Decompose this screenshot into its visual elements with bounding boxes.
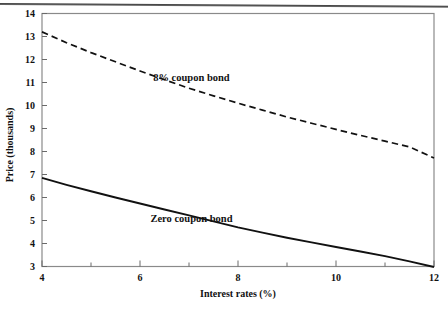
x-tick-label: 4 bbox=[40, 272, 45, 283]
y-tick-label: 9 bbox=[30, 123, 35, 134]
x-tick-label: 10 bbox=[331, 272, 341, 283]
x-tick-label: 8 bbox=[236, 272, 241, 283]
y-axis-title: Price (thousands) bbox=[4, 108, 16, 183]
y-tick-label: 7 bbox=[30, 169, 35, 180]
chart-page: 34567891011121314 4681012 8% coupon bond… bbox=[0, 0, 448, 312]
series-label-2: Zero coupon bond bbox=[150, 213, 232, 224]
y-tick-label: 12 bbox=[25, 54, 35, 65]
x-axis-tick-labels: 4681012 bbox=[40, 272, 440, 283]
bond-price-vs-interest-rate-chart: 34567891011121314 4681012 8% coupon bond… bbox=[0, 0, 448, 312]
x-tick-label: 6 bbox=[138, 272, 143, 283]
y-axis-tick-labels: 34567891011121314 bbox=[25, 8, 35, 272]
x-tick-label: 12 bbox=[429, 272, 439, 283]
x-axis-title: Interest rates (%) bbox=[200, 288, 276, 300]
y-tick-label: 3 bbox=[30, 261, 35, 272]
y-tick-label: 13 bbox=[25, 31, 35, 42]
y-tick-label: 6 bbox=[30, 192, 35, 203]
plot-area-frame bbox=[42, 14, 434, 267]
series-label-1: 8% coupon bond bbox=[153, 72, 230, 83]
y-tick-label: 5 bbox=[30, 215, 35, 226]
y-tick-label: 10 bbox=[25, 100, 35, 111]
y-tick-label: 4 bbox=[30, 238, 35, 249]
y-tick-label: 14 bbox=[25, 8, 35, 19]
y-tick-label: 11 bbox=[26, 77, 35, 88]
y-tick-label: 8 bbox=[30, 146, 35, 157]
